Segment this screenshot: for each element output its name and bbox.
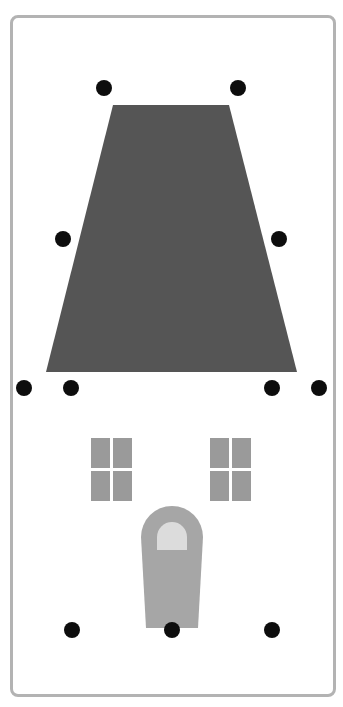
roof-mid-left-handle[interactable] — [55, 231, 71, 247]
roof-base-inner-right-handle[interactable] — [264, 380, 280, 396]
roof-top-left-handle[interactable] — [96, 80, 112, 96]
window-pane — [113, 438, 132, 468]
window-pane — [91, 438, 110, 468]
roof-base-outer-right-handle[interactable] — [311, 380, 327, 396]
roof-trapezoid[interactable] — [46, 105, 297, 372]
roof-top-right-handle[interactable] — [230, 80, 246, 96]
window-pane — [232, 438, 251, 468]
roof-mid-right-handle[interactable] — [271, 231, 287, 247]
window-pane — [232, 471, 251, 501]
bottom-right-handle[interactable] — [264, 622, 280, 638]
right-window — [210, 438, 251, 501]
window-pane — [210, 438, 229, 468]
house-diagram — [0, 0, 343, 707]
window-pane — [91, 471, 110, 501]
roof-base-outer-left-handle[interactable] — [16, 380, 32, 396]
bottom-center-handle[interactable] — [164, 622, 180, 638]
window-pane — [210, 471, 229, 501]
left-window — [91, 438, 132, 501]
windows-group — [91, 438, 251, 501]
bottom-left-handle[interactable] — [64, 622, 80, 638]
window-pane — [113, 471, 132, 501]
roof-base-inner-left-handle[interactable] — [63, 380, 79, 396]
